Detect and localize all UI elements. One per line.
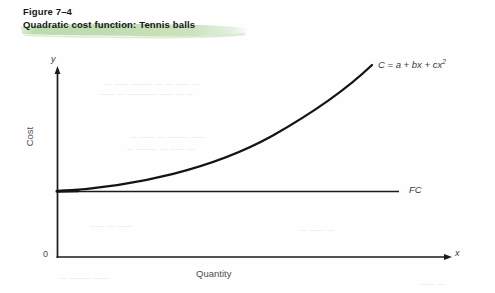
cost-curve (58, 65, 372, 191)
fixed-cost-label: FC (409, 184, 422, 195)
y-axis-arrowhead (55, 66, 61, 74)
cost-curve-exponent: 2 (442, 58, 446, 65)
intercept-marker (57, 191, 78, 192)
origin-label: 0 (43, 249, 48, 259)
figure-container: — —— ——— — — —— — —— — ———— —— — — — —— … (0, 0, 495, 293)
cost-curve-label: C = a + bx + cx2 (378, 58, 446, 70)
y-axis-title: Cost (24, 107, 35, 167)
cost-curve-equation: C = a + bx + cx (378, 59, 442, 70)
x-axis-title: Quantity (196, 268, 231, 279)
y-axis-name: y (51, 54, 56, 64)
x-axis-arrowhead (444, 254, 452, 260)
x-axis-name: x (455, 248, 460, 258)
figure-title-block: Figure 7–4 Quadratic cost function: Tenn… (23, 6, 195, 31)
figure-caption: Quadratic cost function: Tennis balls (23, 19, 195, 32)
plot-area (0, 0, 495, 293)
figure-number: Figure 7–4 (23, 6, 195, 19)
